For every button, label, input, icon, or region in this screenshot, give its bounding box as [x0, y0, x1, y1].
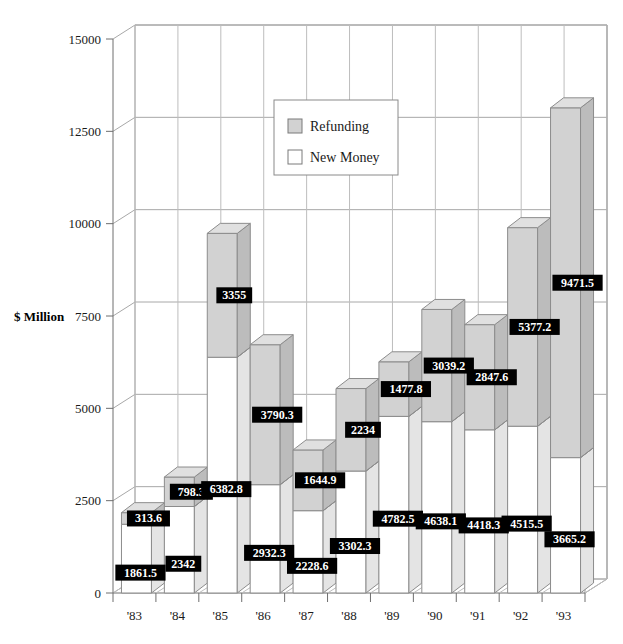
value-label-refunding: 9471.5 — [552, 275, 602, 291]
x-category-label: '86 — [256, 608, 272, 623]
x-category-label: '88 — [341, 608, 356, 623]
bar-group — [207, 223, 250, 593]
x-category-label: '85 — [213, 608, 228, 623]
value-label-refunding: 2234 — [345, 422, 381, 438]
svg-text:4418.3: 4418.3 — [467, 518, 500, 532]
x-category-label: '93 — [556, 608, 571, 623]
value-label-refunding: 2847.6 — [467, 369, 517, 385]
svg-text:5377.2: 5377.2 — [518, 320, 551, 334]
svg-text:3355: 3355 — [222, 288, 246, 302]
stacked-bar-chart-3d: 1861.5313.62342798.36382.833552932.33790… — [0, 0, 623, 644]
svg-text:2228.6: 2228.6 — [296, 559, 329, 573]
x-category-label: '87 — [298, 608, 314, 623]
svg-text:1477.8: 1477.8 — [389, 382, 422, 396]
value-label-new-money: 2932.3 — [244, 545, 294, 561]
value-label-new-money: 2228.6 — [287, 558, 337, 574]
svg-text:2847.6: 2847.6 — [475, 370, 508, 384]
svg-text:1644.9: 1644.9 — [304, 473, 337, 487]
value-label-refunding: 1644.9 — [295, 472, 345, 488]
chart-page: 1861.5313.62342798.36382.833552932.33790… — [0, 0, 623, 644]
svg-text:2932.3: 2932.3 — [253, 546, 286, 560]
value-label-refunding: 3355 — [216, 287, 252, 303]
value-label-new-money: 4782.5 — [373, 511, 423, 527]
y-tick-label: 12500 — [69, 124, 102, 139]
x-category-label: '90 — [427, 608, 442, 623]
bar-group — [551, 98, 594, 593]
svg-text:3302.3: 3302.3 — [339, 539, 372, 553]
value-label-new-money: 6382.8 — [201, 481, 251, 497]
svg-text:4782.5: 4782.5 — [381, 512, 414, 526]
bar-group — [422, 299, 465, 593]
legend-label: Refunding — [310, 119, 369, 134]
y-tick-label: 5000 — [75, 401, 101, 416]
y-tick-label: 2500 — [75, 493, 101, 508]
svg-text:1861.5: 1861.5 — [124, 566, 157, 580]
value-label-new-money: 4515.5 — [502, 516, 552, 532]
value-label-refunding: 1477.8 — [381, 381, 431, 397]
legend-swatch — [288, 150, 302, 164]
svg-text:3790.3: 3790.3 — [261, 408, 294, 422]
svg-text:3665.2: 3665.2 — [553, 532, 586, 546]
legend-layer[interactable]: RefundingNew Money — [274, 100, 398, 175]
svg-text:2234: 2234 — [351, 423, 375, 437]
value-label-new-money: 4418.3 — [459, 517, 509, 533]
svg-text:4515.5: 4515.5 — [510, 517, 543, 531]
svg-text:3039.2: 3039.2 — [432, 359, 465, 373]
value-label-new-money: 4638.1 — [416, 513, 466, 529]
value-label-new-money: 2342 — [165, 556, 201, 572]
legend-label: New Money — [310, 150, 380, 165]
svg-text:4638.1: 4638.1 — [424, 514, 457, 528]
x-category-label: '83 — [127, 608, 142, 623]
svg-text:313.6: 313.6 — [135, 511, 162, 525]
x-category-label: '89 — [384, 608, 399, 623]
value-label-new-money: 3302.3 — [330, 538, 380, 554]
legend-item-refunding[interactable]: Refunding — [288, 119, 369, 134]
y-tick-label: 0 — [95, 586, 102, 601]
bar-group — [508, 218, 551, 593]
value-label-refunding: 313.6 — [127, 510, 170, 526]
value-label-refunding: 5377.2 — [510, 319, 560, 335]
y-axis-title: $ Million — [14, 309, 65, 324]
svg-text:2342: 2342 — [171, 557, 195, 571]
y-tick-label: 15000 — [69, 32, 102, 47]
value-label-new-money: 1861.5 — [115, 565, 165, 581]
x-category-label: '91 — [470, 608, 485, 623]
x-category-label: '84 — [170, 608, 186, 623]
legend-swatch — [288, 119, 302, 133]
svg-text:6382.8: 6382.8 — [210, 482, 243, 496]
x-category-label: '92 — [513, 608, 528, 623]
svg-text:798.3: 798.3 — [178, 485, 205, 499]
bar-group — [465, 315, 508, 593]
svg-text:9471.5: 9471.5 — [561, 276, 594, 290]
y-tick-label: 10000 — [69, 216, 102, 231]
legend-item-new-money[interactable]: New Money — [288, 150, 380, 165]
y-tick-label: 7500 — [75, 309, 101, 324]
value-label-refunding: 3039.2 — [424, 358, 474, 374]
value-label-refunding: 3790.3 — [252, 407, 302, 423]
value-label-new-money: 3665.2 — [544, 531, 594, 547]
